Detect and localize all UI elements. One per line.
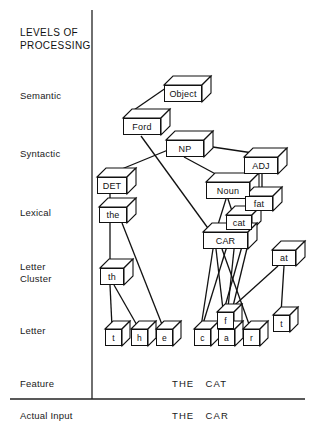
node-label-let-h: h xyxy=(131,329,148,346)
node-let-r[interactable]: r xyxy=(243,321,268,346)
node-label-th: th xyxy=(100,268,124,285)
node-label-adj: ADJ xyxy=(244,157,278,174)
node-label-let-e: e xyxy=(156,329,173,346)
node-label-object: Object xyxy=(164,85,202,102)
node-let-e[interactable]: e xyxy=(156,321,181,346)
level-label-lexical: Lexical xyxy=(20,207,51,219)
node-det[interactable]: DET xyxy=(97,168,136,194)
link-car-to-let-c xyxy=(201,249,213,327)
node-label-let-a: a xyxy=(218,329,235,346)
level-label-syntactic: Syntactic xyxy=(20,148,60,160)
node-label-cat: cat xyxy=(226,215,252,230)
node-let-t1[interactable]: t xyxy=(105,321,130,346)
node-label-at: at xyxy=(272,250,296,266)
level-label-feature: Feature xyxy=(20,378,54,390)
node-label-let-c: c xyxy=(194,329,211,346)
node-label-noun: Noun xyxy=(206,182,250,199)
node-np[interactable]: NP xyxy=(166,131,213,157)
node-object[interactable]: Object xyxy=(164,76,211,102)
node-label-car: CAR xyxy=(203,232,248,249)
node-label-let-r: r xyxy=(243,329,260,346)
node-label-let-f: f xyxy=(217,312,234,329)
node-label-the: the xyxy=(99,207,127,223)
node-label-ford: Ford xyxy=(123,118,161,135)
node-let-t2[interactable]: t xyxy=(273,307,298,332)
figure-heading: LEVELS OF PROCESSING xyxy=(20,27,91,52)
node-label-fat: fat xyxy=(245,196,273,211)
node-ford[interactable]: Ford xyxy=(123,109,170,135)
level-label-actual-input: Actual Input xyxy=(20,410,73,422)
node-let-h[interactable]: h xyxy=(131,321,156,346)
node-the[interactable]: the xyxy=(99,198,136,223)
node-fat[interactable]: fat xyxy=(245,187,282,211)
node-label-let-t1: t xyxy=(105,329,122,346)
node-at[interactable]: at xyxy=(272,241,305,266)
node-label-np: NP xyxy=(166,140,204,157)
actual-input-row: THE CAR xyxy=(172,410,229,421)
figure-canvas: LEVELS OF PROCESSING SemanticSyntacticLe… xyxy=(0,0,318,428)
link-at-to-let-t2 xyxy=(281,266,284,313)
node-adj[interactable]: ADJ xyxy=(244,148,287,174)
node-th[interactable]: th xyxy=(100,259,133,285)
node-label-let-t2: t xyxy=(273,315,290,332)
level-label-letter-cluster: Letter Cluster xyxy=(20,261,52,285)
node-let-c[interactable]: c xyxy=(194,321,219,346)
level-label-letter: Letter xyxy=(20,325,46,337)
node-label-det: DET xyxy=(97,177,127,194)
feature-row: THE CAT xyxy=(172,378,227,389)
level-label-semantic: Semantic xyxy=(20,90,61,102)
